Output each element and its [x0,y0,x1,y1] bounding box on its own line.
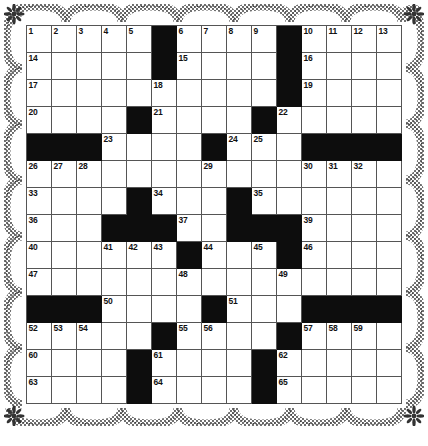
grid-cell-entry[interactable] [377,188,402,215]
grid-cell-entry[interactable] [52,188,77,215]
grid-cell-entry[interactable] [102,80,127,107]
grid-cell-entry[interactable]: 45 [252,242,277,269]
grid-cell-entry[interactable] [177,188,202,215]
grid-cell-entry[interactable] [152,161,177,188]
grid-cell-entry[interactable] [102,53,127,80]
grid-cell-entry[interactable]: 60 [27,350,52,377]
grid-cell-entry[interactable] [227,377,252,404]
grid-cell-entry[interactable] [377,269,402,296]
grid-cell-entry[interactable] [127,80,152,107]
grid-cell-entry[interactable] [102,107,127,134]
grid-cell-entry[interactable] [227,242,252,269]
grid-cell-entry[interactable] [202,80,227,107]
grid-cell-entry[interactable]: 18 [152,80,177,107]
grid-cell-entry[interactable]: 26 [27,161,52,188]
grid-cell-entry[interactable]: 63 [27,377,52,404]
grid-cell-entry[interactable] [52,269,77,296]
grid-cell-entry[interactable] [202,215,227,242]
grid-cell-entry[interactable] [252,161,277,188]
grid-cell-entry[interactable] [327,188,352,215]
grid-cell-entry[interactable] [352,188,377,215]
grid-cell-entry[interactable]: 40 [27,242,52,269]
grid-cell-entry[interactable] [77,377,102,404]
grid-cell-entry[interactable] [252,323,277,350]
grid-cell-entry[interactable] [77,269,102,296]
grid-cell-entry[interactable] [52,80,77,107]
grid-cell-entry[interactable] [77,107,102,134]
grid-cell-entry[interactable] [227,323,252,350]
grid-cell-entry[interactable]: 56 [202,323,227,350]
grid-cell-entry[interactable] [177,107,202,134]
grid-cell-entry[interactable]: 21 [152,107,177,134]
grid-cell-entry[interactable]: 24 [227,134,252,161]
grid-cell-entry[interactable] [327,107,352,134]
grid-cell-entry[interactable]: 6 [177,26,202,53]
grid-cell-entry[interactable]: 14 [27,53,52,80]
grid-cell-entry[interactable] [277,296,302,323]
grid-cell-entry[interactable]: 47 [27,269,52,296]
grid-cell-entry[interactable]: 5 [127,26,152,53]
grid-cell-entry[interactable]: 36 [27,215,52,242]
grid-cell-entry[interactable] [127,161,152,188]
grid-cell-entry[interactable] [377,323,402,350]
grid-cell-entry[interactable]: 57 [302,323,327,350]
grid-cell-entry[interactable] [177,296,202,323]
grid-cell-entry[interactable] [352,242,377,269]
grid-cell-entry[interactable] [202,377,227,404]
grid-cell-entry[interactable]: 19 [302,80,327,107]
grid-cell-entry[interactable] [152,134,177,161]
grid-cell-entry[interactable] [377,161,402,188]
grid-cell-entry[interactable] [377,350,402,377]
grid-cell-entry[interactable] [77,215,102,242]
grid-cell-entry[interactable] [302,188,327,215]
crossword-grid[interactable]: 1234567891011121314151617181920212223242… [26,25,402,404]
grid-cell-entry[interactable] [252,269,277,296]
grid-cell-entry[interactable] [377,242,402,269]
grid-cell-entry[interactable]: 46 [302,242,327,269]
grid-cell-entry[interactable] [227,107,252,134]
grid-cell-entry[interactable]: 61 [152,350,177,377]
grid-cell-entry[interactable] [52,53,77,80]
grid-cell-entry[interactable]: 53 [52,323,77,350]
grid-cell-entry[interactable] [177,80,202,107]
grid-cell-entry[interactable]: 64 [152,377,177,404]
grid-cell-entry[interactable]: 43 [152,242,177,269]
grid-cell-entry[interactable] [352,53,377,80]
grid-cell-entry[interactable] [177,161,202,188]
grid-cell-entry[interactable] [77,53,102,80]
grid-cell-entry[interactable] [127,323,152,350]
grid-cell-entry[interactable] [52,350,77,377]
grid-cell-entry[interactable]: 32 [352,161,377,188]
grid-cell-entry[interactable]: 34 [152,188,177,215]
grid-cell-entry[interactable]: 50 [102,296,127,323]
grid-cell-entry[interactable]: 4 [102,26,127,53]
grid-cell-entry[interactable]: 29 [202,161,227,188]
grid-cell-entry[interactable] [177,377,202,404]
grid-cell-entry[interactable] [352,269,377,296]
grid-cell-entry[interactable] [377,107,402,134]
grid-cell-entry[interactable] [102,323,127,350]
grid-cell-entry[interactable]: 9 [252,26,277,53]
grid-cell-entry[interactable] [352,80,377,107]
grid-cell-entry[interactable] [327,269,352,296]
grid-cell-entry[interactable]: 62 [277,350,302,377]
grid-cell-entry[interactable] [102,350,127,377]
grid-cell-entry[interactable] [177,350,202,377]
grid-cell-entry[interactable]: 44 [202,242,227,269]
grid-cell-entry[interactable]: 3 [77,26,102,53]
grid-cell-entry[interactable]: 20 [27,107,52,134]
grid-cell-entry[interactable] [102,377,127,404]
grid-cell-entry[interactable] [327,80,352,107]
grid-cell-entry[interactable] [102,161,127,188]
grid-cell-entry[interactable]: 41 [102,242,127,269]
grid-cell-entry[interactable] [302,107,327,134]
grid-cell-entry[interactable]: 13 [377,26,402,53]
grid-cell-entry[interactable] [302,377,327,404]
grid-cell-entry[interactable] [77,188,102,215]
grid-cell-entry[interactable] [252,296,277,323]
grid-cell-entry[interactable] [277,188,302,215]
grid-cell-entry[interactable]: 59 [352,323,377,350]
grid-cell-entry[interactable] [277,161,302,188]
grid-cell-entry[interactable] [52,242,77,269]
grid-cell-entry[interactable]: 1 [27,26,52,53]
